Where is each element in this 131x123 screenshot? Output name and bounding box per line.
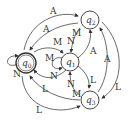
state-q3: q3 — [81, 91, 99, 109]
label-q0-q0: N — [13, 69, 21, 79]
label-q2-q0: A — [42, 24, 50, 34]
label-q1-q0: N — [50, 71, 58, 81]
label-q3-q1-m: M — [72, 89, 81, 99]
label-q3-q1-n: N — [67, 79, 75, 89]
edge-q1-q3 — [78, 66, 89, 88]
label-q1-q3: L — [90, 75, 96, 85]
label-q1-q2: A — [89, 46, 97, 56]
label-q1-q1: M — [45, 53, 54, 63]
state-q2: q2 — [81, 11, 99, 29]
state-diagram: q0 q1 q2 q3 N A A M N M M N A L M N L L … — [0, 0, 131, 123]
label-q2-q3: L — [115, 82, 121, 92]
label-q0-q2: A — [49, 6, 57, 16]
label-q2-q1-n: N — [67, 36, 75, 46]
label-q0-q1: M — [53, 37, 62, 47]
label-q3-q0: L — [42, 84, 48, 94]
label-q0-q3: L — [36, 105, 42, 115]
label-q3-q2: A — [103, 54, 111, 64]
state-q1: q1 — [61, 53, 79, 71]
